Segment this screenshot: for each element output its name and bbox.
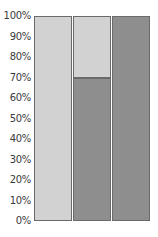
y-tick-label: 50% bbox=[10, 114, 31, 124]
y-tick-label: 0% bbox=[16, 216, 31, 226]
y-tick-label: 10% bbox=[10, 196, 31, 206]
y-tick-label: 70% bbox=[10, 73, 31, 83]
bar-segment-light bbox=[73, 16, 111, 78]
y-tick-label: 60% bbox=[10, 93, 31, 103]
bar-segment-dark bbox=[73, 78, 111, 222]
bar-segment-light bbox=[34, 16, 72, 221]
bar bbox=[112, 16, 150, 221]
y-tick-label: 90% bbox=[10, 32, 31, 42]
y-tick-label: 30% bbox=[10, 155, 31, 165]
y-tick-label: 80% bbox=[10, 52, 31, 62]
bar bbox=[73, 16, 111, 221]
y-tick-label: 100% bbox=[4, 11, 31, 21]
bar bbox=[34, 16, 72, 221]
stacked-bar-chart: 0%10%20%30%40%50%60%70%80%90%100% bbox=[0, 0, 158, 237]
y-tick-label: 20% bbox=[10, 175, 31, 185]
y-tick-label: 40% bbox=[10, 134, 31, 144]
bar-segment-dark bbox=[112, 16, 150, 221]
